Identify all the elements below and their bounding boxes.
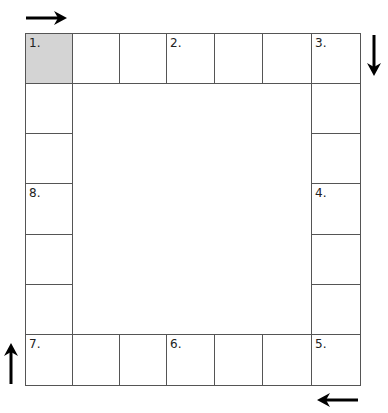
board-space [311, 83, 361, 134]
space-label: 1. [29, 36, 40, 50]
board-space [25, 234, 73, 285]
board-space: 6. [166, 334, 215, 386]
board-space [311, 234, 361, 285]
board-space [311, 133, 361, 184]
board-space: 1. [25, 33, 73, 84]
board-space: 7. [25, 334, 73, 386]
board-space [25, 133, 73, 184]
board-space [214, 33, 263, 84]
space-label: 3. [315, 36, 326, 50]
space-label: 5. [315, 337, 326, 351]
space-label: 7. [29, 337, 40, 351]
board-space [311, 284, 361, 335]
space-label: 2. [170, 36, 181, 50]
board-space [214, 334, 263, 386]
board-space [119, 334, 167, 386]
board-space [72, 334, 120, 386]
board-space: 4. [311, 183, 361, 235]
board-space [25, 284, 73, 335]
game-board: 1.2.3.4.5.6.7.8. [25, 33, 360, 385]
arrow-up-icon [3, 342, 19, 386]
space-label: 8. [29, 186, 40, 200]
board-space: 8. [25, 183, 73, 235]
space-label: 6. [170, 337, 181, 351]
board-space: 2. [166, 33, 215, 84]
arrow-right-icon [24, 10, 68, 26]
board-space: 3. [311, 33, 361, 84]
board-space [262, 33, 312, 84]
board-space [262, 334, 312, 386]
arrow-left-icon [316, 392, 360, 408]
space-label: 4. [315, 186, 326, 200]
board-space [25, 83, 73, 134]
board-space: 5. [311, 334, 361, 386]
board-space [119, 33, 167, 84]
arrow-down-icon [366, 33, 382, 77]
board-space [72, 33, 120, 84]
